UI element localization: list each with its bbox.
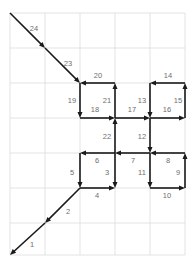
arrow-head-18-right [109, 116, 115, 121]
grid-lines [10, 13, 185, 255]
arrow-path-diagram: 123456789101112131415161718192021222324 [0, 0, 193, 272]
arrow-label-23: 23 [64, 60, 72, 68]
arrow-label-18: 18 [91, 106, 99, 114]
arrow-label-7: 7 [131, 157, 135, 165]
arrow-label-12: 12 [138, 133, 146, 141]
arrow-head-20-left [80, 81, 86, 86]
arrow-label-19: 19 [68, 97, 76, 105]
arrow-label-16: 16 [163, 106, 171, 114]
arrow-segments [10, 13, 188, 255]
arrow-head-12-down [148, 147, 153, 153]
arrow-shaft-2 [48, 188, 80, 220]
arrow-head-22-up [113, 118, 118, 124]
arrow-head-6-left [80, 151, 86, 156]
arrow-label-5: 5 [70, 169, 74, 177]
arrow-head-11-down [148, 182, 153, 188]
arrow-head-13-down [148, 112, 153, 118]
arrow-label-1: 1 [30, 241, 34, 249]
arrow-label-2: 2 [66, 208, 70, 216]
arrow-label-20: 20 [94, 72, 102, 80]
arrow-head-16-right [179, 116, 185, 121]
diagram-canvas [0, 0, 193, 272]
arrow-head-21-up [113, 83, 118, 89]
arrow-label-11: 11 [138, 169, 146, 177]
arrow-label-10: 10 [163, 192, 171, 200]
arrow-label-6: 6 [95, 157, 99, 165]
arrow-label-24: 24 [30, 25, 38, 33]
arrow-label-4: 4 [95, 192, 99, 200]
arrow-head-4-right [109, 186, 115, 191]
arrow-head-9-up [183, 153, 188, 159]
arrow-label-21: 21 [103, 97, 111, 105]
arrow-head-8-left [150, 151, 156, 156]
arrow-label-8: 8 [166, 157, 170, 165]
arrow-label-15: 15 [174, 97, 182, 105]
arrow-label-9: 9 [176, 169, 180, 177]
arrow-label-22: 22 [103, 133, 111, 141]
arrow-head-15-up [183, 83, 188, 89]
arrow-head-19-down [78, 112, 83, 118]
arrow-label-17: 17 [128, 106, 136, 114]
arrow-head-7-left [115, 151, 121, 156]
arrow-head-3-down [113, 182, 118, 188]
arrow-label-3: 3 [105, 169, 109, 177]
arrow-head-14-left [150, 81, 156, 86]
arrow-label-13: 13 [138, 97, 146, 105]
arrow-head-5-down [78, 182, 83, 188]
arrow-head-10-right [179, 186, 185, 191]
arrow-head-17-right [144, 116, 150, 121]
arrow-label-14: 14 [164, 72, 172, 80]
